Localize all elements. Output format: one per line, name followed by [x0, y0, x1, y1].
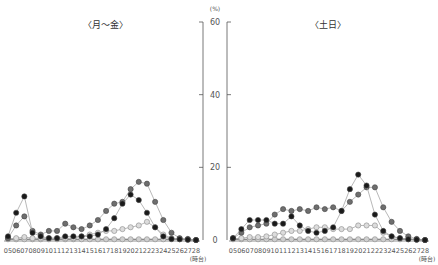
series-darkgray-point	[397, 228, 402, 233]
series-lightgray-point	[30, 236, 35, 241]
series-black-point	[193, 237, 198, 242]
series-black-point	[364, 183, 369, 188]
series-lightgray-point	[364, 223, 369, 228]
series-lightgray-point	[280, 230, 285, 235]
x-tick-label: 05	[4, 247, 12, 255]
y-tick-label: 60	[210, 18, 220, 27]
series-black-point	[322, 228, 327, 233]
x-tick-label: 12	[61, 247, 69, 255]
x-tick-label: 17	[102, 247, 110, 255]
x-tick-label: 10	[45, 247, 53, 255]
series-baseline-point	[280, 237, 285, 242]
series-black-point	[397, 236, 402, 241]
series-darkgray-point	[306, 208, 311, 213]
series-darkgray-point	[103, 208, 108, 213]
series-lightgray-point	[289, 228, 294, 233]
series-black-point	[120, 201, 125, 206]
x-tick-label: 11	[279, 247, 287, 255]
series-baseline-point	[364, 237, 369, 242]
x-tick-label: 24	[387, 247, 395, 255]
panel-right: 0506070809101112131415161718192021222324…	[229, 172, 435, 263]
series-baseline-point	[120, 237, 125, 242]
series-black-line	[233, 175, 425, 240]
series-black-point	[297, 223, 302, 228]
series-black-point	[185, 237, 190, 242]
series-black-point	[103, 227, 108, 232]
x-tick-label: 06	[12, 247, 20, 255]
series-baseline-point	[128, 237, 133, 242]
series-lightgray-point	[112, 228, 117, 233]
x-tick-label: 13	[296, 247, 304, 255]
series-darkgray-point	[372, 185, 377, 190]
series-black-point	[46, 236, 51, 241]
series-baseline-point	[136, 237, 141, 242]
series-darkgray-point	[136, 179, 141, 184]
x-tick-label: 25	[167, 247, 175, 255]
series-lightgray-point	[14, 236, 19, 241]
series-lightgray-point	[272, 232, 277, 237]
series-darkgray-point	[153, 199, 158, 204]
series-black-point	[406, 237, 411, 242]
series-black-point	[414, 237, 419, 242]
series-black-point	[272, 221, 277, 226]
series-darkgray	[230, 185, 427, 243]
series-black-point	[356, 172, 361, 177]
x-tick-label: 28	[192, 247, 200, 255]
x-tick-label: 08	[28, 247, 36, 255]
x-tick-label: 28	[421, 247, 429, 255]
x-tick-label: 15	[312, 247, 320, 255]
series-lightgray-point	[22, 234, 27, 239]
series-black-point	[339, 208, 344, 213]
series-darkgray-point	[247, 225, 252, 230]
series-darkgray-point	[322, 207, 327, 212]
series-baseline-point	[297, 237, 302, 242]
series-black-point	[247, 217, 252, 222]
series-lightgray-point	[247, 234, 252, 239]
series-black-point	[54, 236, 59, 241]
series-black-point	[255, 217, 260, 222]
series-black-point	[422, 237, 427, 242]
series-black-point	[169, 236, 174, 241]
series-darkgray-point	[54, 228, 59, 233]
series-black-point	[128, 192, 133, 197]
chart: 〈月～金〉 〈土日〉 (%) 0204060 05060708091011121…	[0, 0, 438, 265]
series-lightgray-line	[8, 222, 196, 240]
x-tick-label: 27	[413, 247, 421, 255]
series-black-point	[306, 228, 311, 233]
x-tick-label: 13	[69, 247, 77, 255]
right-panel-title: 〈土日〉	[310, 19, 346, 30]
series-baseline-point	[347, 237, 352, 242]
x-tick-label: 26	[176, 247, 184, 255]
x-tick-label: 09	[262, 247, 270, 255]
series-baseline-point	[289, 237, 294, 242]
series-darkgray-point	[161, 217, 166, 222]
series-black-line	[8, 195, 196, 240]
series-lightgray-point	[128, 225, 133, 230]
y-axis-unit: (%)	[210, 5, 220, 12]
series-darkgray-point	[297, 207, 302, 212]
series-baseline-point	[381, 237, 386, 242]
series-lightgray-point	[136, 223, 141, 228]
series-darkgray-point	[255, 223, 260, 228]
series-black-point	[38, 234, 43, 239]
x-tick-label: 22	[143, 247, 151, 255]
series-black-point	[30, 230, 35, 235]
x-tick-label: 26	[404, 247, 412, 255]
series-black-point	[264, 217, 269, 222]
series-darkgray-point	[144, 181, 149, 186]
x-tick-label: 27	[184, 247, 192, 255]
x-tick-label: 06	[237, 247, 245, 255]
series-lightgray-point	[120, 227, 125, 232]
series-lightgray-point	[144, 219, 149, 224]
series-black-point	[289, 214, 294, 219]
series-baseline-point	[103, 237, 108, 242]
series-darkgray-point	[46, 228, 51, 233]
series-baseline-point	[112, 237, 117, 242]
series-lightgray-point	[356, 223, 361, 228]
x-tick-label: 11	[53, 247, 61, 255]
series-lightgray-point	[372, 223, 377, 228]
series-black-point	[79, 234, 84, 239]
x-tick-label: 10	[271, 247, 279, 255]
series-baseline-point	[372, 237, 377, 242]
series-darkgray-point	[79, 227, 84, 232]
